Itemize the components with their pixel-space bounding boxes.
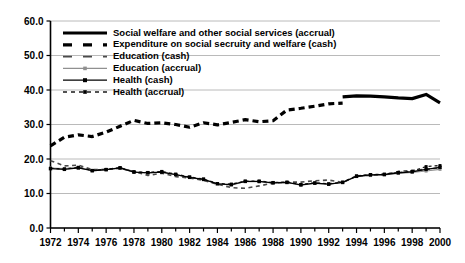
- y-axis-tick-label: 20.0: [24, 154, 44, 165]
- series-marker: [104, 168, 107, 171]
- series-marker: [63, 168, 66, 171]
- y-axis-labels: 0.010.020.030.040.050.060.0: [24, 16, 44, 234]
- legend-item-label: Health (accrual): [113, 86, 184, 97]
- chart-container: 0.010.020.030.040.050.060.0 197219741976…: [0, 0, 465, 263]
- legend-item-label: Education (cash): [113, 50, 190, 61]
- series-marker: [202, 178, 205, 181]
- y-axis-tick-label: 40.0: [24, 85, 44, 96]
- x-axis-tick-label: 1972: [39, 237, 62, 248]
- series-marker: [188, 176, 191, 179]
- chart-legend: Social welfare and other social services…: [60, 27, 336, 99]
- data-series: [49, 94, 442, 188]
- series-solid-square: [49, 166, 442, 187]
- legend-item-label: Social welfare and other social services…: [113, 27, 335, 38]
- legend-swatch-marker: [83, 90, 87, 94]
- x-axis-labels: 1972197419761978198019821984198619881990…: [39, 237, 451, 248]
- series-marker: [327, 182, 330, 185]
- x-axis-tick-label: 1978: [123, 237, 146, 248]
- series-marker: [355, 175, 358, 178]
- series-marker: [216, 182, 219, 185]
- series-marker: [410, 170, 413, 173]
- series-marker: [230, 183, 233, 186]
- series-marker: [383, 173, 386, 176]
- series-marker: [257, 180, 260, 183]
- series-marker: [160, 170, 163, 173]
- x-axis-tick-label: 1974: [67, 237, 90, 248]
- x-axis-tick-label: 2000: [429, 237, 452, 248]
- series-marker: [425, 165, 428, 168]
- y-axis-tick-label: 10.0: [24, 188, 44, 199]
- series-marker: [285, 181, 288, 184]
- series-marker: [397, 171, 400, 174]
- series-marker: [118, 166, 121, 169]
- series-marker: [341, 181, 344, 184]
- series-marker: [49, 167, 52, 170]
- legend-item-label: Education (accrual): [113, 62, 201, 73]
- series-marker: [369, 173, 372, 176]
- legend-swatch-marker: [83, 67, 87, 71]
- legend-swatch-marker: [83, 78, 87, 82]
- series-marker: [299, 183, 302, 186]
- x-axis-tick-label: 1980: [151, 237, 174, 248]
- series-marker: [244, 180, 247, 183]
- x-axis-tick-label: 1988: [262, 237, 285, 248]
- series-marker: [132, 170, 135, 173]
- legend-item[interactable]: Education (accrual): [60, 62, 320, 75]
- legend-item-label: Health (cash): [113, 74, 173, 85]
- x-axis-tick-label: 1976: [95, 237, 118, 248]
- x-axis-tick-label: 1996: [373, 237, 396, 248]
- x-axis-tick-label: 1992: [318, 237, 341, 248]
- y-axis-tick-label: 30.0: [24, 119, 44, 130]
- y-axis-tick-label: 0.0: [30, 223, 44, 234]
- series-marker: [424, 168, 427, 171]
- series-line: [343, 94, 440, 102]
- legend-item[interactable]: Expenditure on social secruity and welfa…: [60, 38, 336, 51]
- series-marker: [438, 166, 441, 169]
- legend-item[interactable]: Health (cash): [60, 74, 320, 87]
- x-axis-tick-label: 1998: [401, 237, 424, 248]
- series-marker: [313, 181, 316, 184]
- series-marker: [77, 166, 80, 169]
- series-thick-solid: [343, 94, 440, 102]
- x-axis-tick-label: 1986: [234, 237, 257, 248]
- series-marker: [146, 171, 149, 174]
- y-axis-tick-label: 60.0: [24, 16, 44, 27]
- x-axis-tick-label: 1984: [206, 237, 229, 248]
- legend-item[interactable]: Health (accrual): [60, 86, 320, 99]
- series-marker: [271, 181, 274, 184]
- series-marker: [91, 169, 94, 172]
- legend-item-label: Expenditure on social secruity and welfa…: [113, 38, 336, 49]
- x-axis-tick-label: 1994: [345, 237, 368, 248]
- x-axis-tick-label: 1982: [178, 237, 201, 248]
- series-marker: [174, 173, 177, 176]
- y-axis-tick-label: 50.0: [24, 50, 44, 61]
- x-axis-tick-label: 1990: [290, 237, 313, 248]
- line-chart: 0.010.020.030.040.050.060.0 197219741976…: [0, 0, 465, 263]
